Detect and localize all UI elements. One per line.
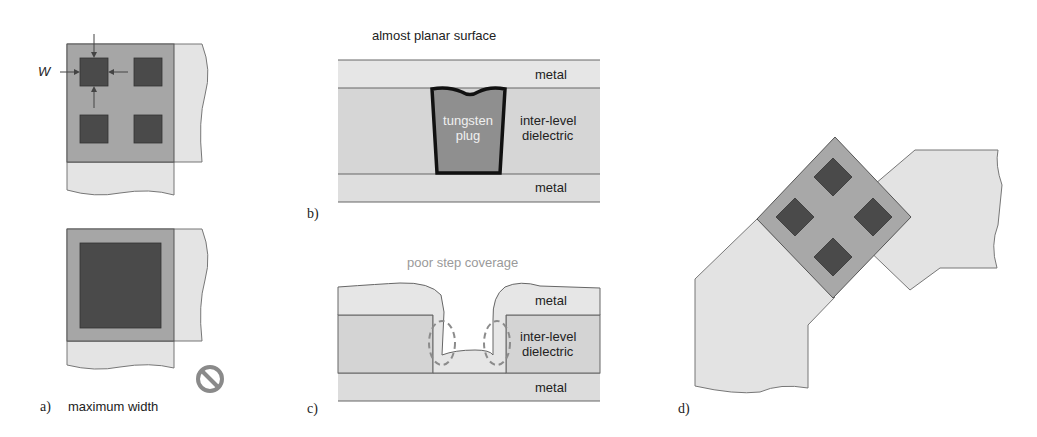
plug-label-line1: tungsten — [443, 113, 493, 128]
panel-c-dielectric-label-2: dielectric — [522, 344, 574, 359]
panel-c-top-metal-label: metal — [535, 293, 567, 308]
panel-a-label: a) — [40, 399, 51, 415]
width-dimension-label: W — [38, 64, 52, 79]
panel-c-dielectric-label-1: inter-level — [520, 329, 576, 344]
panel-b-top-metal-label: metal — [535, 67, 567, 82]
prohibited-icon — [198, 367, 222, 391]
panel-d-label: d) — [678, 401, 690, 417]
panel-a-caption: maximum width — [68, 399, 158, 414]
panel-a-multi-contact — [60, 34, 208, 195]
panel-c-bottom-metal-label: metal — [535, 380, 567, 395]
panel-b-dielectric-label-2: dielectric — [522, 128, 574, 143]
figure-canvas: W a) maximum width almost planar surface… — [0, 0, 1037, 437]
panel-a-single-wide-contact — [67, 229, 208, 369]
panel-c-title: poor step coverage — [407, 255, 518, 270]
plug-label-line2: plug — [456, 128, 481, 143]
panel-b-label: b) — [307, 206, 319, 222]
panel-b-dielectric-label-1: inter-level — [520, 113, 576, 128]
panel-b-title: almost planar surface — [372, 28, 496, 43]
panel-b-bottom-metal-label: metal — [535, 180, 567, 195]
panel-c-label: c) — [307, 401, 318, 417]
panel-d-diagonal-via — [695, 137, 1002, 393]
